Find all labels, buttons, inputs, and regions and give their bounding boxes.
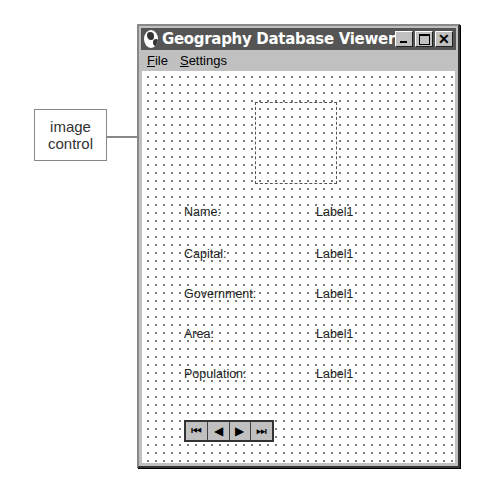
first-record-button[interactable]: ⏮	[186, 422, 208, 440]
population-label: Population:	[184, 367, 247, 381]
callout-line2: control	[48, 135, 93, 152]
app-window: Geography Database Viewer ✕ File Setting…	[137, 24, 460, 468]
menu-settings-mnemonic: S	[180, 53, 189, 68]
capital-value: Label1	[316, 247, 354, 261]
name-value: Label1	[316, 205, 354, 219]
prev-record-button[interactable]: ◀	[208, 422, 230, 440]
menu-settings-label: ettings	[189, 53, 227, 68]
menu-settings[interactable]: Settings	[180, 53, 227, 68]
data-navigator: ⏮ ◀ ▶ ⏭	[184, 420, 274, 442]
minimize-button[interactable]	[395, 31, 413, 47]
maximize-button[interactable]	[415, 31, 433, 47]
capital-label: Capital:	[184, 247, 226, 261]
name-label: Name:	[184, 205, 221, 219]
first-icon: ⏮	[191, 424, 202, 438]
close-button[interactable]: ✕	[435, 31, 453, 47]
government-label: Government:	[184, 287, 256, 301]
area-label: Area:	[184, 327, 214, 341]
menu-file-label: ile	[155, 53, 168, 68]
form-design-surface: Name: Label1 Capital: Label1 Government:…	[142, 71, 455, 463]
area-value: Label1	[316, 327, 354, 341]
menu-bar: File Settings	[141, 50, 456, 70]
next-record-button[interactable]: ▶	[230, 422, 252, 440]
next-icon: ▶	[235, 424, 244, 438]
prev-icon: ◀	[214, 424, 223, 438]
menu-file-mnemonic: F	[147, 53, 155, 68]
title-bar[interactable]: Geography Database Viewer ✕	[141, 28, 456, 50]
population-value: Label1	[316, 367, 354, 381]
government-value: Label1	[316, 287, 354, 301]
last-record-button[interactable]: ⏭	[251, 422, 272, 440]
callout-line1: image	[50, 118, 91, 135]
image-control[interactable]	[255, 102, 337, 184]
menu-file[interactable]: File	[147, 53, 168, 68]
image-control-callout: image control	[34, 109, 107, 161]
window-title: Geography Database Viewer	[162, 30, 395, 48]
globe-icon	[144, 30, 158, 48]
last-icon: ⏭	[256, 424, 267, 438]
